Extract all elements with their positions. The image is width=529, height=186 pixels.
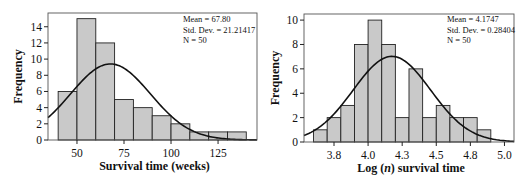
histogram-bar xyxy=(314,130,328,142)
x-axis-title-part-3: ) survival time xyxy=(391,161,466,175)
histogram-bar xyxy=(395,118,409,142)
histogram-bar xyxy=(96,43,115,140)
histogram-bar xyxy=(327,118,341,142)
stats-box: Mean = 67.80 Std. Dev. = 21.21417 N = 50 xyxy=(183,14,255,45)
x-tick-label: 3.8 xyxy=(327,149,342,161)
x-axis-title: Log (n) survival time xyxy=(357,161,465,175)
histogram-bar xyxy=(152,116,171,140)
y-tick-label: 4 xyxy=(36,102,42,114)
stat-n: N = 50 xyxy=(447,35,471,45)
bars xyxy=(58,19,246,140)
y-tick-label: 4 xyxy=(292,87,298,99)
y-axis: 02468101214 xyxy=(31,21,49,146)
y-axis: 0246810 xyxy=(287,14,305,148)
histogram-bar xyxy=(341,105,355,142)
x-tick-label: 4.5 xyxy=(429,149,444,161)
y-tick-label: 8 xyxy=(36,69,42,81)
x-tick-label: 4.8 xyxy=(463,149,478,161)
y-tick-label: 2 xyxy=(292,112,298,124)
x-tick-label: 75 xyxy=(118,147,130,159)
x-axis-title-part-1: Log ( xyxy=(357,161,384,175)
histogram-bar xyxy=(77,19,96,140)
x-axis-title: Survival time (weeks) xyxy=(99,159,210,173)
histogram-log-survival-time-svg: 0246810 3.84.04.34.54.85.0 Mean = 4.1747… xyxy=(265,0,529,186)
y-axis-title: Frequency xyxy=(268,51,282,105)
y-tick-label: 8 xyxy=(292,38,298,50)
histogram-survival-time-svg: 02468101214 5075100125 Mean = 67.80 Std.… xyxy=(0,0,265,186)
stat-sd: Std. Dev. = 21.21417 xyxy=(183,25,255,35)
y-axis-title: Frequency xyxy=(11,49,25,103)
histogram-bar xyxy=(464,118,478,142)
histogram-bar xyxy=(354,44,368,142)
histogram-bar xyxy=(58,91,77,140)
x-tick-label: 125 xyxy=(209,147,227,159)
x-tick-label: 4.3 xyxy=(395,149,410,161)
y-tick-label: 12 xyxy=(31,37,43,49)
x-axis: 5075100125 xyxy=(71,140,227,159)
y-tick-label: 0 xyxy=(36,134,42,146)
x-tick-label: 5.0 xyxy=(497,149,512,161)
x-tick-label: 50 xyxy=(71,147,83,159)
stats-box: Mean = 4.1747 Std. Dev. = 0.28404 N = 50 xyxy=(447,14,516,45)
histogram-bar xyxy=(115,100,134,140)
histogram-bar xyxy=(171,124,190,140)
histogram-bar xyxy=(368,20,382,142)
x-axis: 3.84.04.34.54.85.0 xyxy=(327,142,512,161)
y-tick-label: 10 xyxy=(287,14,299,26)
histogram-bar xyxy=(423,118,437,142)
y-tick-label: 14 xyxy=(31,21,43,33)
x-tick-label: 100 xyxy=(162,147,180,159)
x-tick-label: 4.0 xyxy=(361,149,376,161)
stat-mean: Mean = 67.80 xyxy=(183,14,231,24)
stat-n: N = 50 xyxy=(183,35,207,45)
y-tick-label: 2 xyxy=(36,118,42,130)
stat-sd: Std. Dev. = 0.28404 xyxy=(447,25,516,35)
stat-mean: Mean = 4.1747 xyxy=(447,14,499,24)
y-tick-label: 10 xyxy=(31,53,43,65)
histogram-bar xyxy=(133,108,152,140)
histogram-log-survival-time: 0246810 3.84.04.34.54.85.0 Mean = 4.1747… xyxy=(265,0,529,186)
y-tick-label: 6 xyxy=(36,85,42,97)
y-tick-label: 0 xyxy=(292,136,298,148)
histogram-survival-time: 02468101214 5075100125 Mean = 67.80 Std.… xyxy=(0,0,265,186)
y-tick-label: 6 xyxy=(292,63,298,75)
histogram-bar xyxy=(409,69,423,142)
